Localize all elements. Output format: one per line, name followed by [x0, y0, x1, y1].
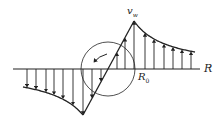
peak-velocity-label: vw	[127, 6, 138, 18]
core-radius-subscript: 0	[146, 77, 150, 84]
right-decay-curve	[134, 21, 195, 52]
velocity-profile-graphic	[0, 0, 219, 126]
core-radius-symbol: R	[138, 71, 146, 82]
axis-label-r: R	[204, 63, 212, 74]
core-radius-label: R0	[138, 72, 149, 84]
vortex-diagram: vw R0 R	[0, 0, 219, 126]
downward-velocity-arrows	[27, 69, 101, 114]
core-linear-profile-line	[83, 21, 134, 115]
upward-velocity-arrows	[117, 22, 191, 69]
peak-velocity-subscript: w	[133, 11, 138, 18]
left-decay-curve	[23, 87, 83, 115]
rotation-arrow-icon	[94, 54, 107, 62]
